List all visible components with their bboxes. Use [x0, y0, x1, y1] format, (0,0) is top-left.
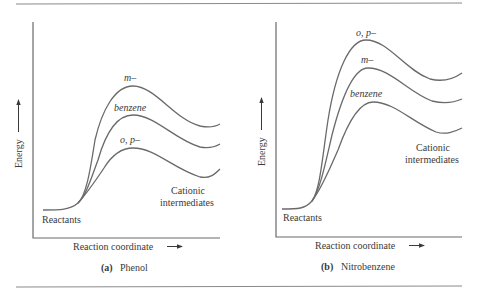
panel-a-y-axis-label: Energy: [13, 100, 24, 168]
panel-nitrobenzene: Energy o, p– m– benzene Reactants Cation…: [256, 22, 462, 273]
svg-text:Energy: Energy: [256, 137, 267, 166]
top-rule: [16, 3, 462, 4]
panel-b-label-benzene: benzene: [350, 88, 383, 99]
panel-b-label-op: o, p–: [356, 27, 377, 38]
panel-b-curve-op: [282, 40, 462, 209]
panel-a-cationic-label: Cationic: [171, 185, 205, 196]
bottom-rule: [16, 286, 462, 287]
panel-b-intermediates-label: intermediates: [405, 154, 459, 165]
panel-b-reactants-label: Reactants: [283, 212, 322, 223]
panel-b-cationic-label: Cationic: [416, 142, 450, 153]
panel-b-caption-letter: (b): [321, 261, 333, 273]
energy-diagram-figure: Energy m– benzene o, p– Reactants Cation…: [0, 0, 479, 301]
panel-a-label-m: m–: [124, 72, 137, 83]
panel-phenol: Energy m– benzene o, p– Reactants Cation…: [13, 22, 220, 274]
panel-a-reactants-label: Reactants: [42, 214, 81, 225]
panel-a-intermediates-label: intermediates: [160, 197, 214, 208]
panel-a-caption-letter: (a): [101, 262, 113, 274]
panel-b-label-m: m–: [361, 54, 374, 65]
panel-a-x-axis-label: Reaction coordinate: [73, 241, 154, 252]
panel-b-x-axis-label: Reaction coordinate: [315, 240, 396, 251]
panel-a-caption-text: Phenol: [120, 262, 148, 273]
panel-a-label-benzene: benzene: [114, 102, 147, 113]
svg-text:Energy: Energy: [13, 139, 24, 168]
diagram-canvas: Energy m– benzene o, p– Reactants Cation…: [0, 0, 479, 301]
panel-a-label-op: o, p–: [120, 134, 141, 145]
panel-b-caption-text: Nitrobenzene: [341, 261, 395, 272]
panel-b-y-axis-label: Energy: [256, 98, 267, 166]
